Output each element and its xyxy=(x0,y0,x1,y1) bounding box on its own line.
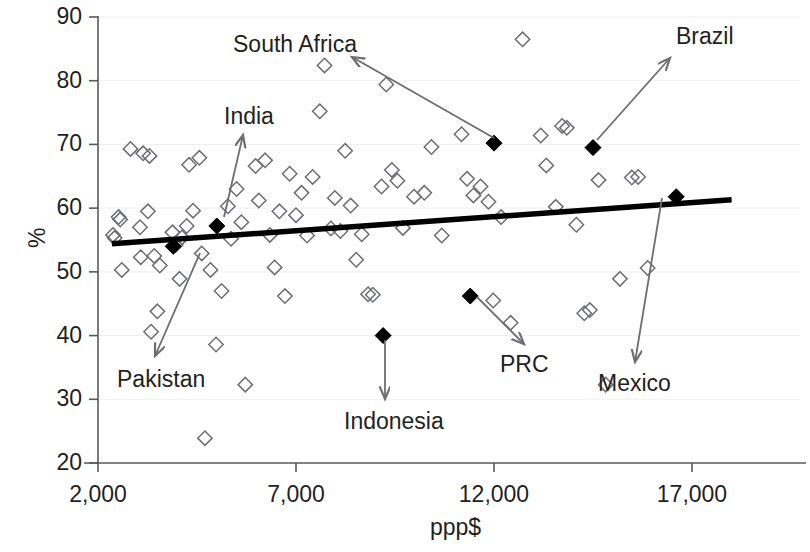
y-tick-label: 50 xyxy=(30,260,82,283)
annotation-label-prc: PRC xyxy=(500,353,549,376)
data-points-highlighted xyxy=(165,135,684,343)
y-axis-title: % xyxy=(26,228,49,248)
annotation-label-south-africa: South Africa xyxy=(233,33,357,56)
x-tick-label: 7,000 xyxy=(236,483,356,506)
annotation-label-brazil: Brazil xyxy=(676,25,734,48)
x-axis-title: ppp$ xyxy=(430,516,481,539)
trendline xyxy=(112,200,732,244)
x-tick-label: 17,000 xyxy=(632,483,752,506)
gridlines xyxy=(94,17,800,399)
plot-area xyxy=(0,0,810,552)
annotation-label-india: India xyxy=(224,105,274,128)
y-tick-label: 40 xyxy=(30,324,82,347)
y-tick-label: 90 xyxy=(30,5,82,28)
y-tick-label: 80 xyxy=(30,69,82,92)
annotation-label-indonesia: Indonesia xyxy=(344,410,444,433)
y-tick-label: 70 xyxy=(30,132,82,155)
y-tick-label: 60 xyxy=(30,196,82,219)
scatter-chart: 9080706050403020 2,0007,00012,00017,000 … xyxy=(0,0,810,552)
y-tick-label: 20 xyxy=(30,451,82,474)
x-tick-label: 2,000 xyxy=(38,483,158,506)
annotation-label-mexico: Mexico xyxy=(598,372,671,395)
x-tick-label: 12,000 xyxy=(434,483,554,506)
y-tick-label: 30 xyxy=(30,387,82,410)
annotation-label-pakistan: Pakistan xyxy=(117,368,205,391)
